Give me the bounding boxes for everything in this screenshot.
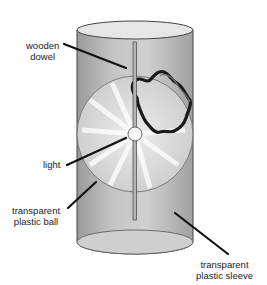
label-light: light	[43, 159, 60, 170]
label-line: plastic sleeve	[196, 270, 253, 281]
label-plastic-ball: transparent plastic ball	[12, 205, 60, 227]
label-line: light	[43, 159, 60, 170]
label-line: dowel	[26, 51, 59, 62]
label-line: transparent	[196, 259, 253, 270]
label-line: transparent	[12, 205, 60, 216]
label-wooden-dowel: wooden dowel	[26, 40, 59, 62]
label-line: plastic ball	[12, 216, 60, 227]
label-line: wooden	[26, 40, 59, 51]
light-bulb	[128, 127, 142, 141]
label-plastic-sleeve: transparent plastic sleeve	[196, 259, 253, 281]
